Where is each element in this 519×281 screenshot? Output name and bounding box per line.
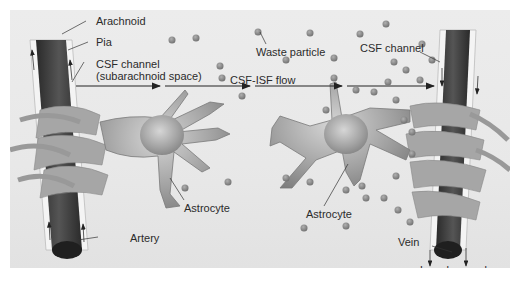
label-vein: Vein — [398, 236, 419, 248]
label-csf-channel-left-2: (subarachnoid space) — [96, 70, 202, 82]
label-arachnoid: Arachnoid — [96, 15, 146, 27]
left-endfeet — [10, 106, 108, 198]
label-waste-particle: Waste particle — [256, 46, 325, 58]
label-csf-channel-right: CSF channel — [360, 42, 424, 54]
right-astrocyte — [270, 82, 410, 188]
label-pia: Pia — [96, 36, 112, 48]
label-csf-isf-flow: CSF-ISF flow — [230, 74, 295, 86]
label-astrocyte-left: Astrocyte — [184, 202, 230, 214]
label-astrocyte-right: Astrocyte — [306, 208, 352, 220]
label-csf-channel-left-1: CSF channel — [96, 58, 160, 70]
label-artery: Artery — [130, 232, 159, 244]
label-lymph-vessels: Lymph vessels — [420, 264, 492, 268]
left-astrocyte — [100, 90, 230, 208]
glymphatic-diagram: Arachnoid Pia CSF channel (subarachnoid … — [10, 10, 510, 268]
